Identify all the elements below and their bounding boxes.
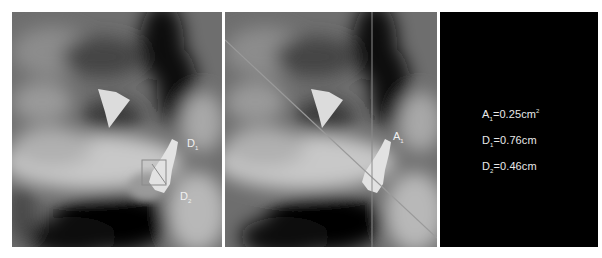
measurement-results-panel: A1=0.25cm2 D1=0.76cm D2=0.46cm [440,12,598,247]
ultrasound-scan-left [12,12,222,247]
label-a1: A1 [393,130,404,144]
measurement-diameter-d2: D2=0.46cm [482,160,537,174]
label-d2: D2 [180,190,191,204]
ultrasound-image-middle: A1 [225,12,437,247]
ultrasound-image-left: D1 D2 [12,12,222,247]
label-d1: D1 [187,137,198,151]
measurement-area-a1: A1=0.25cm2 [482,108,540,122]
measurement-diameter-d1: D1=0.76cm [482,134,537,148]
ultrasound-scan-middle [225,12,437,247]
